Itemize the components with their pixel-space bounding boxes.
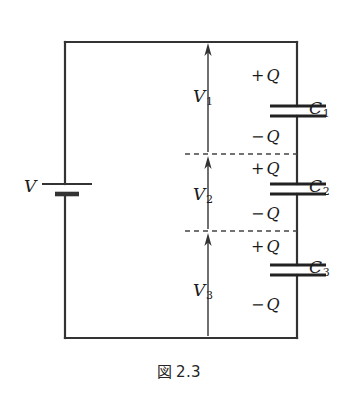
circuit-schematic-svg — [0, 0, 358, 393]
voltage-label-v3-subscript: 3 — [206, 289, 213, 302]
charge-label-c1-bottom-symbol: Q — [266, 127, 279, 146]
charge-label-c1-bottom: −Q — [251, 129, 280, 145]
voltage-label-v1-base: V — [193, 86, 205, 106]
battery-symbol — [42, 184, 92, 194]
capacitor-label-c2-subscript: 2 — [323, 185, 330, 198]
charge-label-c3-bottom-sign: − — [251, 295, 264, 314]
voltage-label-v1: V1 — [193, 88, 213, 107]
voltage-label-v2: V2 — [193, 186, 213, 205]
charge-label-c1-bottom-sign: − — [251, 127, 264, 146]
capacitor-label-c3: C3 — [309, 259, 330, 278]
figure-circuit-diagram: V V1 V2 V3 C1 C2 C3 +Q −Q +Q −Q +Q −Q 図2… — [0, 0, 358, 393]
charge-label-c3-bottom: −Q — [251, 297, 280, 313]
charge-label-c1-top: +Q — [251, 68, 280, 84]
capacitor-label-c3-base: C — [309, 257, 322, 277]
charge-label-c1-top-sign: + — [251, 66, 264, 85]
circuit-loop-wires — [65, 42, 297, 338]
charge-label-c3-top-symbol: Q — [266, 237, 279, 256]
battery-voltage-label-text: V — [24, 176, 36, 196]
charge-label-c2-bottom: −Q — [251, 206, 280, 222]
figure-caption-symbol: 図 — [157, 363, 172, 381]
voltage-label-v2-base: V — [193, 184, 205, 204]
capacitor-label-c1: C1 — [309, 100, 330, 119]
voltage-label-v2-subscript: 2 — [206, 193, 213, 206]
charge-label-c1-top-symbol: Q — [266, 66, 279, 85]
figure-caption: 図2.3 — [0, 360, 358, 381]
charge-label-c3-top-sign: + — [251, 237, 264, 256]
figure-caption-number: 2.3 — [176, 363, 201, 381]
charge-label-c2-bottom-sign: − — [251, 204, 264, 223]
charge-label-c2-bottom-symbol: Q — [266, 204, 279, 223]
capacitor-label-c2: C2 — [309, 178, 330, 197]
voltage-label-v3-base: V — [193, 280, 205, 300]
voltage-label-v3: V3 — [193, 282, 213, 301]
charge-label-c3-top: +Q — [251, 239, 280, 255]
charge-label-c2-top-sign: + — [251, 159, 264, 178]
capacitor-label-c3-subscript: 3 — [323, 266, 330, 279]
capacitor-label-c2-base: C — [309, 176, 322, 196]
charge-label-c2-top: +Q — [251, 161, 280, 177]
capacitor-label-c1-subscript: 1 — [323, 107, 330, 120]
charge-label-c3-bottom-symbol: Q — [266, 295, 279, 314]
charge-label-c2-top-symbol: Q — [266, 159, 279, 178]
capacitor-label-c1-base: C — [309, 98, 322, 118]
battery-voltage-label: V — [24, 178, 36, 195]
voltage-label-v1-subscript: 1 — [206, 95, 213, 108]
